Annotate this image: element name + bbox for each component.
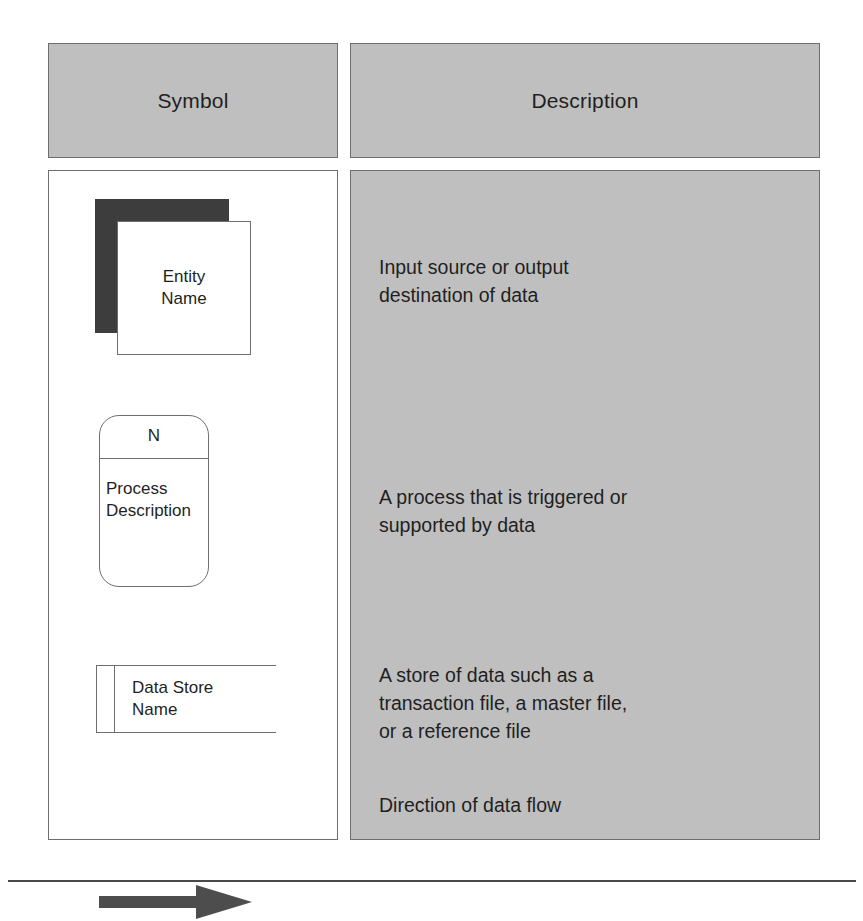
table-header-row: Symbol Description [48, 43, 820, 158]
table-body-row: Entity Name N Process Description Data S… [48, 170, 820, 840]
header-label-description: Description [351, 89, 819, 113]
data-flow-arrow-icon [99, 883, 254, 921]
process-divider-line [100, 458, 209, 459]
entity-name-label: Entity Name [118, 266, 250, 310]
description-text-data-flow: Direction of data flow [379, 791, 789, 819]
description-text-external-entity: Input source or output destination of da… [379, 253, 789, 309]
symbol-column-cell: Entity Name N Process Description Data S… [48, 170, 338, 840]
header-cell-symbol: Symbol [48, 43, 338, 158]
external-entity-symbol: Entity Name [95, 199, 255, 359]
page-bottom-rule [8, 880, 856, 882]
data-store-symbol: Data Store Name [96, 665, 276, 733]
data-store-left-compartment-line [114, 665, 115, 733]
description-column-cell: Input source or output destination of da… [350, 170, 820, 840]
entity-front-square: Entity Name [117, 221, 251, 355]
data-store-name-label: Data Store Name [132, 677, 213, 721]
description-text-data-store: A store of data such as a transaction fi… [379, 661, 789, 745]
header-cell-description: Description [350, 43, 820, 158]
process-description-label: Process Description [106, 478, 210, 522]
process-symbol: N Process Description [99, 415, 209, 587]
description-text-process: A process that is triggered or supported… [379, 483, 789, 539]
header-label-symbol: Symbol [49, 89, 337, 113]
process-number-label: N [100, 426, 208, 446]
dfd-symbol-legend-table: Symbol Description Entity Name N [48, 43, 820, 840]
